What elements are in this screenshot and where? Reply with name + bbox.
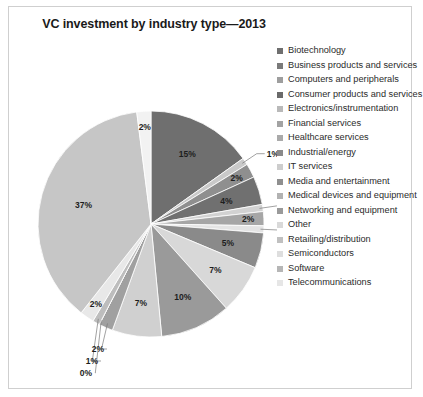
legend-item[interactable]: Financial services [277,118,423,130]
pie-svg: 15%1%2%4%1%2%1%5%7%10%7%2%0%1%2%37%2% [9,41,277,389]
legend-item[interactable]: Networking and equipment [277,205,423,217]
legend-swatch-icon [277,121,283,127]
legend-label: Industrial/energy [288,147,356,159]
legend-item[interactable]: Other [277,219,423,231]
legend-label: Business products and services [288,60,417,72]
legend-item[interactable]: Telecommunications [277,277,423,289]
pie-slice-label: 37% [75,200,92,210]
legend-label: Computers and peripherals [288,74,399,86]
chart-legend: BiotechnologyBusiness products and servi… [277,45,423,390]
legend-label: Other [288,219,311,231]
legend-item[interactable]: Electronics/instrumentation [277,103,423,115]
legend-item[interactable]: Business products and services [277,60,423,72]
legend-label: Electronics/instrumentation [288,103,398,115]
legend-swatch-icon [277,77,283,83]
legend-label: Consumer products and services [288,89,422,101]
legend-item[interactable]: Medical devices and equipment [277,190,423,202]
legend-swatch-icon [277,135,283,141]
legend-swatch-icon [277,280,283,286]
legend-swatch-icon [277,150,283,156]
legend-swatch-icon [277,193,283,199]
pie-slice-label: 1% [86,356,99,366]
pie-slice-label: 2% [242,214,255,224]
legend-swatch-icon [277,92,283,98]
pie-chart: 15%1%2%4%1%2%1%5%7%10%7%2%0%1%2%37%2% [9,41,277,389]
chart-title: VC investment by industry type—2013 [9,17,299,31]
legend-label: Networking and equipment [288,205,397,217]
legend-label: Medical devices and equipment [288,190,417,202]
pie-slice-label: 2% [90,299,103,309]
legend-label: Media and entertainment [288,176,390,188]
pie-slice-label: 4% [220,196,233,206]
pie-slice-label: 7% [135,298,148,308]
legend-item[interactable]: Semiconductors [277,248,423,260]
legend-item[interactable]: Consumer products and services [277,89,423,101]
pie-slices [38,111,264,337]
legend-item[interactable]: Software [277,263,423,275]
legend-swatch-icon [277,164,283,170]
legend-label: Retailing/distribution [288,234,371,246]
legend-swatch-icon [277,63,283,69]
legend-item[interactable]: Retailing/distribution [277,234,423,246]
legend-swatch-icon [277,48,283,54]
legend-swatch-icon [277,251,283,257]
chart-container: VC investment by industry type—2013 15%1… [8,6,412,389]
legend-swatch-icon [277,106,283,112]
legend-swatch-icon [277,222,283,228]
legend-label: Telecommunications [288,277,371,289]
legend-label: Financial services [288,118,361,130]
pie-slice-label: 15% [179,149,196,159]
pie-slice-label: 0% [80,368,93,378]
pie-slice-label: 1% [267,149,277,159]
legend-swatch-icon [277,179,283,185]
legend-swatch-icon [277,208,283,214]
legend-label: Biotechnology [288,45,346,57]
legend-item[interactable]: Healthcare services [277,132,423,144]
legend-label: IT services [288,161,332,173]
pie-slice-label: 2% [231,173,244,183]
legend-swatch-icon [277,266,283,272]
pie-slice-label: 5% [222,238,235,248]
pie-slice-label: 7% [209,265,222,275]
legend-label: Software [288,263,324,275]
legend-swatch-icon [277,237,283,243]
legend-item[interactable]: Industrial/energy [277,147,423,159]
legend-label: Healthcare services [288,132,369,144]
legend-label: Semiconductors [288,248,354,260]
pie-slice-label: 2% [139,122,152,132]
legend-item[interactable]: Biotechnology [277,45,423,57]
legend-item[interactable]: IT services [277,161,423,173]
legend-item[interactable]: Media and entertainment [277,176,423,188]
legend-item[interactable]: Computers and peripherals [277,74,423,86]
pie-slice-label: 10% [174,292,191,302]
pie-slice-label: 2% [92,344,105,354]
